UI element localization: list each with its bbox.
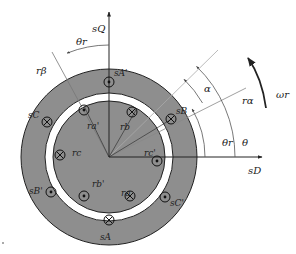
theta-r-top-arc — [67, 45, 109, 53]
rotor-label-2: rc' — [144, 148, 156, 158]
sd-label: sD — [248, 165, 261, 176]
theta-label: θ — [242, 137, 248, 148]
alpha-arc — [184, 79, 203, 103]
rotor-label-1: rb — [120, 122, 130, 132]
machine-diagram: sA'sBsC'sAsB'sCra'rbrc'rarb'rc sQ sD rβ … — [0, 0, 296, 254]
rbeta-label: rβ — [36, 65, 47, 76]
stator-label-2: sC' — [170, 198, 184, 208]
dot-icon — [83, 195, 86, 198]
stator-label-4: sB' — [29, 186, 43, 196]
dot-icon — [50, 191, 53, 194]
sq-label: sQ — [92, 23, 105, 34]
dot-icon — [156, 160, 159, 163]
rotor-label-4: rb' — [92, 179, 105, 189]
theta-r-top-label: θr — [76, 36, 88, 47]
theta-r-label: θr — [222, 137, 234, 148]
dot-icon — [164, 196, 167, 199]
stator-label-0: sA' — [114, 68, 128, 78]
stator-label-5: sC — [28, 110, 40, 120]
omega-r-label: ωr — [276, 89, 290, 100]
rotor-label-3: ra — [121, 188, 131, 198]
alpha-label: α — [204, 83, 211, 94]
dot-icon — [83, 109, 86, 112]
rotor-label-0: ra' — [87, 121, 99, 131]
stator-label-1: sB — [176, 106, 188, 116]
ralpha-label: rα — [242, 95, 254, 106]
stray-dot — [2, 242, 4, 244]
stator-label-3: sA — [100, 232, 112, 242]
dot-icon — [108, 81, 111, 84]
rotor-label-5: rc — [72, 148, 81, 158]
